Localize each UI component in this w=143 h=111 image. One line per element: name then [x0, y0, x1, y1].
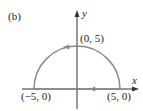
semicircle-diagram: (b) y x (0, 5) (−5, 0) (5, 0) [0, 0, 143, 111]
point-label-right: (5, 0) [107, 90, 131, 103]
panel-label: (b) [8, 10, 21, 23]
arc-direction-arrow-icon [63, 45, 70, 50]
point-label-top: (0, 5) [80, 32, 104, 45]
segment-direction-arrow-icon [93, 87, 99, 92]
point-label-left: (−5, 0) [21, 90, 51, 103]
y-axis-arrow-icon [75, 10, 80, 17]
x-axis-label: x [131, 74, 137, 86]
y-axis-label: y [81, 7, 87, 19]
x-axis-arrow-icon [132, 87, 139, 92]
